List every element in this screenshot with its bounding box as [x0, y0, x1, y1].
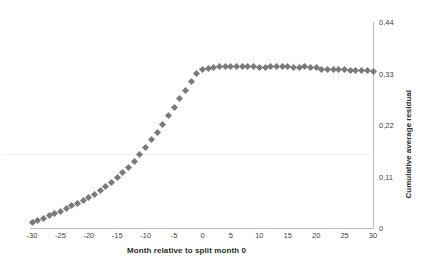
x-tick-label: 10	[255, 231, 263, 240]
y-axis-line	[373, 22, 374, 229]
data-point	[165, 112, 172, 119]
data-point	[171, 104, 178, 111]
chart-container: -30-25-20-15-10-5051015202530 00,110,220…	[0, 0, 425, 266]
y-tick-label: 0,11	[379, 172, 393, 181]
x-tick-label: -5	[171, 231, 178, 240]
x-tick-label: 0	[200, 231, 204, 240]
y-axis-title-text: Cumulative average residual	[404, 68, 413, 199]
x-tick-label: -20	[83, 231, 94, 240]
faint-gridline	[2, 154, 373, 155]
data-point	[114, 174, 121, 181]
x-tick-label: 20	[312, 231, 320, 240]
y-tick-label: 0,22	[379, 121, 394, 130]
data-point	[108, 179, 115, 186]
data-point	[125, 164, 132, 171]
plot-area: -30-25-20-15-10-5051015202530 00,110,220…	[0, 0, 425, 266]
x-tick-label: -10	[140, 231, 151, 240]
x-tick-label: 5	[229, 231, 233, 240]
x-axis-line	[30, 228, 374, 229]
data-point	[119, 169, 126, 176]
data-point	[136, 151, 143, 158]
x-tick-label: 15	[284, 231, 292, 240]
y-axis-title: Cumulative average residual	[398, 0, 418, 266]
data-point	[159, 121, 166, 128]
x-tick-label: -25	[55, 231, 66, 240]
x-axis-title: Month relative to split month 0	[0, 246, 373, 255]
data-point	[176, 95, 183, 102]
x-tick-label: -15	[112, 231, 123, 240]
y-tick-label: 0	[379, 224, 383, 233]
data-point	[153, 128, 160, 135]
y-tick-label: 0,44	[379, 18, 394, 27]
x-tick-label: -30	[27, 231, 38, 240]
data-point	[148, 136, 155, 143]
data-point	[188, 78, 195, 85]
data-point	[142, 144, 149, 151]
data-point	[182, 87, 189, 94]
data-point	[369, 68, 376, 75]
y-tick-label: 0,33	[379, 69, 394, 78]
x-tick-label: 30	[369, 231, 377, 240]
x-tick-label: 25	[340, 231, 348, 240]
data-point	[131, 158, 138, 165]
